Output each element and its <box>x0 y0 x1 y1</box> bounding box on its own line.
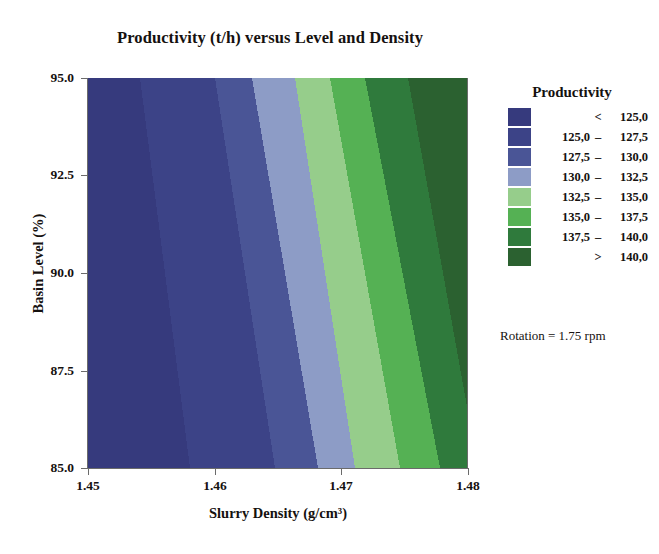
legend-range-low: 135,0 <box>548 210 590 225</box>
legend-swatch <box>508 248 531 266</box>
legend-range-operator: > <box>590 250 606 265</box>
y-tick-mark <box>81 371 87 372</box>
x-axis-spine <box>87 468 469 469</box>
rotation-annotation: Rotation = 1.75 rpm <box>500 328 606 344</box>
legend-swatch <box>508 128 531 146</box>
x-tick-label: 1.46 <box>180 478 250 494</box>
legend-range-high: 140,0 <box>606 250 648 265</box>
legend-label: 137,5–140,0 <box>531 230 656 245</box>
legend-swatch <box>508 148 531 166</box>
legend-range-low: 132,5 <box>548 190 590 205</box>
legend-swatch <box>508 208 531 226</box>
legend: Productivity <125,0125,0–127,5127,5–130,… <box>496 84 656 267</box>
x-tick-mark <box>215 469 216 475</box>
x-tick-mark <box>88 469 89 475</box>
plot-area <box>88 78 468 468</box>
legend-range-high: 137,5 <box>606 210 648 225</box>
legend-range-operator: < <box>590 110 606 125</box>
legend-label: 135,0–137,5 <box>531 210 656 225</box>
legend-range-low: 137,5 <box>548 230 590 245</box>
y-tick-label: 85.0 <box>14 460 74 476</box>
legend-swatch <box>508 188 531 206</box>
x-tick-label: 1.45 <box>53 478 123 494</box>
x-axis-title: Slurry Density (g/cm³) <box>88 505 468 522</box>
legend-item: 132,5–135,0 <box>496 187 656 207</box>
legend-rows: <125,0125,0–127,5127,5–130,0130,0–132,51… <box>496 107 656 267</box>
legend-range-high: 125,0 <box>606 110 648 125</box>
legend-label: 125,0–127,5 <box>531 130 656 145</box>
legend-item: 130,0–132,5 <box>496 167 656 187</box>
legend-range-high: 127,5 <box>606 130 648 145</box>
legend-item: >140,0 <box>496 247 656 267</box>
y-axis-spine <box>87 78 88 469</box>
legend-range-operator: – <box>590 210 606 225</box>
legend-label: >140,0 <box>531 250 656 265</box>
legend-label: 127,5–130,0 <box>531 150 656 165</box>
legend-label: <125,0 <box>531 110 656 125</box>
legend-title: Productivity <box>498 84 646 101</box>
legend-swatch <box>508 168 531 186</box>
legend-range-high: 130,0 <box>606 150 648 165</box>
legend-range-low: 125,0 <box>548 130 590 145</box>
legend-item: 137,5–140,0 <box>496 227 656 247</box>
legend-range-operator: – <box>590 130 606 145</box>
contour-plot-figure: Productivity (t/h) versus Level and Dens… <box>0 0 659 554</box>
legend-range-low: 127,5 <box>548 150 590 165</box>
legend-label: 130,0–132,5 <box>531 170 656 185</box>
legend-range-high: 140,0 <box>606 230 648 245</box>
legend-range-operator: – <box>590 230 606 245</box>
legend-range-high: 135,0 <box>606 190 648 205</box>
contour-bands <box>88 78 468 468</box>
y-tick-label: 95.0 <box>14 70 74 86</box>
y-tick-mark <box>81 468 87 469</box>
legend-swatch <box>508 228 531 246</box>
legend-range-operator: – <box>590 190 606 205</box>
y-tick-mark <box>81 273 87 274</box>
x-tick-mark <box>468 469 469 475</box>
legend-range-low: 130,0 <box>548 170 590 185</box>
x-tick-mark <box>341 469 342 475</box>
y-tick-mark <box>81 175 87 176</box>
y-tick-label: 87.5 <box>14 363 74 379</box>
legend-range-high: 132,5 <box>606 170 648 185</box>
x-tick-label: 1.48 <box>433 478 503 494</box>
y-axis-title: Basin Level (%) <box>30 164 47 364</box>
page-title: Productivity (t/h) versus Level and Dens… <box>60 28 480 48</box>
legend-label: 132,5–135,0 <box>531 190 656 205</box>
legend-range-operator: – <box>590 170 606 185</box>
legend-range-operator: – <box>590 150 606 165</box>
legend-item: <125,0 <box>496 107 656 127</box>
legend-item: 135,0–137,5 <box>496 207 656 227</box>
y-tick-mark <box>81 78 87 79</box>
x-tick-label: 1.47 <box>306 478 376 494</box>
legend-item: 125,0–127,5 <box>496 127 656 147</box>
legend-item: 127,5–130,0 <box>496 147 656 167</box>
legend-swatch <box>508 108 531 126</box>
